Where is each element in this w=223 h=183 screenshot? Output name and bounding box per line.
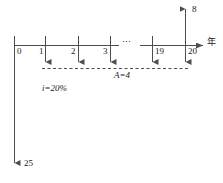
interest-rate-label: i=20%	[42, 84, 67, 93]
tick-label-19: 19	[155, 47, 164, 56]
tick-label-2: 2	[71, 47, 76, 56]
annuity-arrows	[46, 47, 186, 62]
diagram-canvas	[0, 0, 223, 183]
tick-label-20: 20	[188, 47, 197, 56]
salvage-value-label: 8	[192, 5, 197, 14]
cash-flow-diagram: 0 1 2 3 19 20 ⋯ 年 8 25 A=4 i=20%	[0, 0, 223, 183]
annuity-amount-label: A=4	[114, 71, 130, 80]
tick-label-1: 1	[39, 47, 44, 56]
present-value-label: 25	[24, 159, 33, 168]
tick-label-3: 3	[103, 47, 108, 56]
axis-label-year: 年	[207, 38, 216, 47]
axis-ellipsis: ⋯	[122, 38, 132, 47]
tick-label-0: 0	[17, 47, 22, 56]
